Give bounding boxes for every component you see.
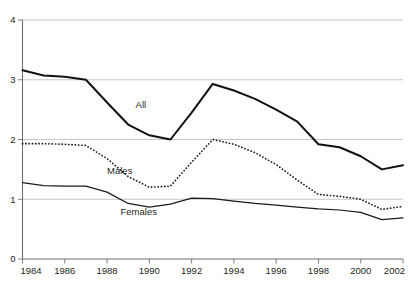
y-tick-label-1: 1: [10, 194, 15, 205]
x-tick-label-2000: 2000: [350, 265, 371, 276]
x-tick-label-1986: 1986: [54, 265, 75, 276]
y-tick-label-2: 2: [10, 134, 15, 145]
series-label-all: All: [136, 99, 147, 110]
x-tick-label-1988: 1988: [96, 265, 117, 276]
series-label-males: Males: [107, 165, 133, 176]
y-tick-labels: 01234: [10, 14, 15, 264]
series-label-females: Females: [121, 206, 158, 217]
series-group: [23, 70, 404, 219]
x-tick-label-1990: 1990: [139, 265, 160, 276]
line-chart: 01234 1984198619881990199219941996199820…: [0, 0, 410, 287]
x-axis: [23, 259, 404, 264]
cropped-caption: [0, 275, 410, 287]
x-tick-label-1994: 1994: [223, 265, 244, 276]
x-tick-label-1984: 1984: [21, 265, 42, 276]
y-tick-label-4: 4: [10, 14, 15, 25]
y-axis: [18, 20, 23, 259]
x-tick-label-1992: 1992: [181, 265, 202, 276]
x-tick-label-2002: 2002: [384, 265, 405, 276]
gridlines-group: [23, 20, 404, 199]
y-tick-label-3: 3: [10, 74, 15, 85]
x-tick-labels: 1984198619881990199219941996199820002002: [21, 265, 406, 276]
series-line-females: [23, 183, 404, 220]
series-line-all: [23, 70, 404, 169]
x-tick-label-1996: 1996: [266, 265, 287, 276]
x-tick-label-1998: 1998: [308, 265, 329, 276]
chart-svg: 01234 1984198619881990199219941996199820…: [0, 0, 410, 287]
y-tick-label-0: 0: [10, 253, 15, 264]
